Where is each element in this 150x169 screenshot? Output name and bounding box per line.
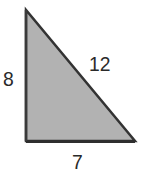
right-triangle-shape <box>26 10 135 141</box>
bottom-side-length-label: 7 <box>72 151 83 169</box>
triangle-diagram <box>0 0 150 169</box>
hypotenuse-length-label: 12 <box>89 53 110 74</box>
left-side-length-label: 8 <box>3 68 14 89</box>
